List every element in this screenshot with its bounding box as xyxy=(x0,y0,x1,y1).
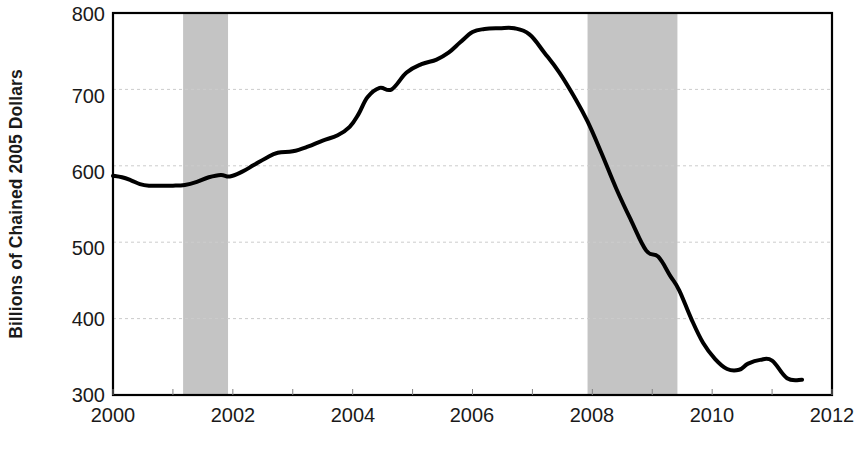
y-tick-label-800: 800 xyxy=(72,3,105,25)
x-tick-label-2006: 2006 xyxy=(450,404,495,426)
y-tick-label-700: 700 xyxy=(72,85,105,107)
y-axis-title: Billions of Chained 2005 Dollars xyxy=(6,69,26,339)
shaded-region-recession-2008 xyxy=(588,13,678,395)
y-tick-label-400: 400 xyxy=(72,308,105,330)
line-chart: Billions of Chained 2005 Dollars 800 700… xyxy=(0,0,868,457)
x-tick-label-2012: 2012 xyxy=(810,404,855,426)
x-tick-label-2004: 2004 xyxy=(331,404,376,426)
x-tick-label-2000: 2000 xyxy=(91,404,136,426)
y-tick-label-600: 600 xyxy=(72,161,105,183)
x-tick-label-2002: 2002 xyxy=(211,404,256,426)
x-tick-label-2008: 2008 xyxy=(570,404,615,426)
y-tick-label-500: 500 xyxy=(72,237,105,259)
chart-figure: Billions of Chained 2005 Dollars 800 700… xyxy=(0,0,868,457)
x-tick-label-2010: 2010 xyxy=(690,404,735,426)
shaded-region-recession-2001 xyxy=(183,13,228,395)
y-tick-label-300: 300 xyxy=(72,384,105,406)
